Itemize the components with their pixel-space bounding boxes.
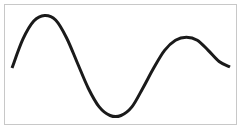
series-line-wave [12, 15, 230, 116]
line-chart [0, 0, 243, 128]
